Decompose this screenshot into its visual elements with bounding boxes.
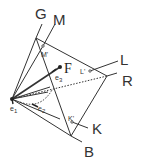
- label-K: K: [92, 120, 102, 137]
- ray-B: [71, 136, 82, 142]
- ray-G: [36, 24, 42, 38]
- label-K-prime: K': [68, 115, 74, 122]
- label-F: F: [64, 61, 72, 76]
- ray-K: [72, 122, 88, 128]
- point-F: [58, 65, 62, 69]
- edges: [12, 24, 118, 142]
- line-origin-K: [12, 99, 60, 119]
- vector-e1: [12, 99, 13, 104]
- label-R: R: [122, 72, 133, 89]
- label-M: M: [53, 11, 66, 28]
- tetrahedron-diagram: G M M' F e3 L L' R K' K B e1 e2: [0, 0, 143, 168]
- label-L-prime: L': [80, 68, 85, 75]
- label-e2: e2: [38, 105, 46, 114]
- point-L-prime: [89, 70, 91, 72]
- label-e3: e3: [55, 74, 63, 83]
- label-G: G: [35, 5, 47, 22]
- point-M-prime: [42, 45, 44, 47]
- ray-L: [90, 61, 118, 71]
- ray-R: [107, 73, 117, 76]
- label-B: B: [84, 143, 94, 160]
- points: [10, 45, 91, 123]
- label-M-prime: M': [41, 51, 48, 58]
- edge-origin-top: [12, 38, 36, 99]
- label-L: L: [120, 51, 128, 68]
- label-e1: e1: [10, 105, 18, 114]
